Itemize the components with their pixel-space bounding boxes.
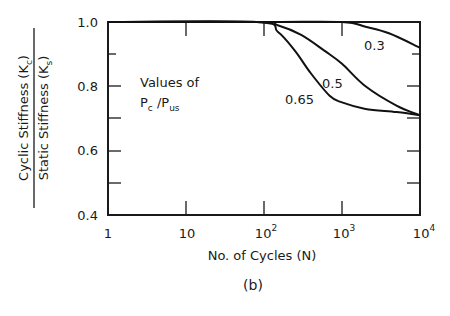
curve-label-0.65: 0.65 — [285, 92, 314, 107]
x-axis-label: No. of Cycles (N) — [208, 248, 317, 263]
y-label-numerator: Cyclic Stiffness (Kc) — [16, 55, 34, 181]
y-tick-label-0.6: 0.6 — [77, 143, 98, 158]
x-tick-label-1: 1 — [104, 226, 112, 241]
x-tick-label-100: 102 — [255, 223, 277, 241]
y-ticks — [108, 54, 420, 183]
curve-label-0.5: 0.5 — [322, 76, 343, 91]
legend-title-line2: Pc /Pus — [140, 95, 180, 113]
figure-caption: (b) — [243, 277, 263, 293]
x-tick-label-10: 10 — [179, 226, 196, 241]
y-tick-label-0.8: 0.8 — [77, 79, 98, 94]
legend-title-line1: Values of — [140, 75, 200, 90]
curve-label-0.3: 0.3 — [364, 38, 385, 53]
stiffness-chart: Cyclic Stiffness (Kc) Static Stiffness (… — [0, 0, 450, 316]
x-tick-label-1000: 103 — [333, 223, 355, 241]
x-ticks — [186, 22, 342, 215]
y-label-denominator: Static Stiffness (Ks) — [36, 56, 54, 181]
x-tick-label-10000: 104 — [413, 223, 436, 241]
y-axis-label: Cyclic Stiffness (Kc) Static Stiffness (… — [16, 28, 54, 208]
y-tick-label-0.4: 0.4 — [77, 208, 98, 223]
y-tick-label-1.0: 1.0 — [77, 15, 98, 30]
